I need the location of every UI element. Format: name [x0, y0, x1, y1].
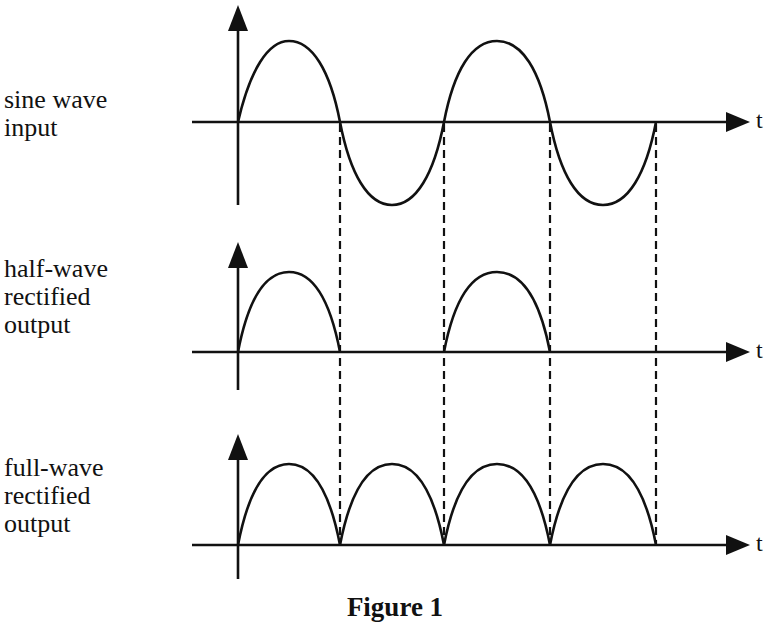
x-axis-arrow-icon — [726, 535, 750, 555]
full-wave-panel — [192, 434, 750, 579]
x-axis-arrow-icon — [726, 112, 750, 132]
dashed-guide-lines — [340, 124, 656, 545]
sine-wave-panel — [192, 5, 750, 205]
figure-caption: Figure 1 — [0, 592, 772, 623]
y-axis-arrow-icon — [228, 242, 248, 268]
y-axis-arrow-icon — [228, 5, 248, 31]
time-axis-label: t — [756, 338, 763, 362]
time-axis-label: t — [756, 531, 763, 555]
x-axis-arrow-icon — [726, 342, 750, 362]
full-wave-waveform — [238, 464, 656, 545]
time-axis-label: t — [756, 108, 763, 132]
half-wave-panel — [192, 242, 750, 390]
y-axis-arrow-icon — [228, 434, 248, 460]
half-wave-waveform — [238, 272, 550, 352]
